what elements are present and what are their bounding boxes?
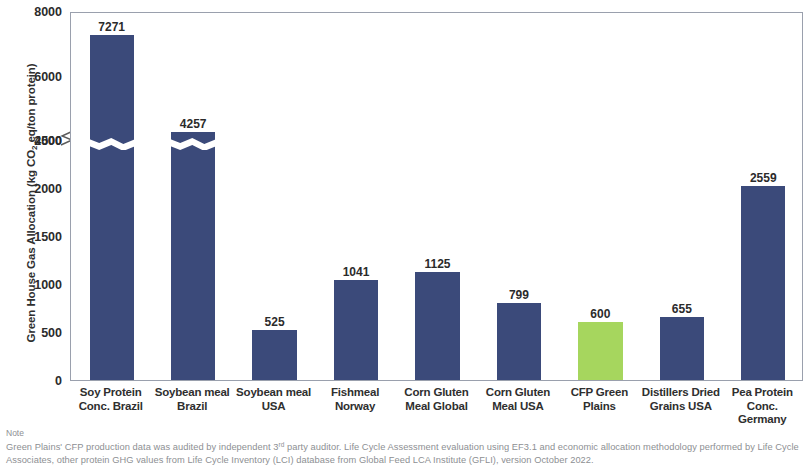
y-tick-label: 0 [16,375,62,388]
bar-group: 1041 [334,13,378,380]
x-category-label-line: Pea Protein [714,386,809,400]
bar-group: 2559 [741,13,785,380]
ghg-allocation-bar-chart: Green House Gas Allocation (kg CO2 eq/to… [0,0,809,472]
note-body: Green Plains' CFP production data was au… [6,439,806,466]
y-axis-tick-labels: 05001000150020002500400060008000 [8,0,62,472]
bar-group: 655 [660,13,704,380]
chart-note: Note Green Plains' CFP production data w… [6,428,806,466]
bar-group: 525 [252,13,296,380]
x-category-label: Pea ProteinConc.Germany [714,386,809,427]
bar[interactable] [415,272,459,380]
y-tick-label: 1500 [16,231,62,244]
bar[interactable] [252,330,296,380]
bar-value-label: 799 [471,289,567,301]
x-category-label-line: Conc. [714,400,809,414]
bar-group: 799 [497,13,541,380]
bar[interactable] [334,280,378,380]
bar[interactable] [171,132,215,380]
bar[interactable] [660,317,704,380]
bar-group: 600 [578,13,622,380]
bar-group: 1125 [415,13,459,380]
bar[interactable] [90,35,134,380]
bar-value-label: 1125 [389,258,485,270]
y-tick-label: 6000 [16,71,62,84]
y-tick-label: 500 [16,327,62,340]
plot-area: 72714257525104111257996006552559 [70,12,803,381]
bar-group: 4257 [171,13,215,380]
bar[interactable] [578,322,622,380]
bar-value-label: 7271 [64,21,160,33]
bar-value-label: 2559 [715,172,809,184]
y-tick-label: 8000 [16,6,62,19]
x-category-label-line: Germany [714,413,809,427]
note-title: Note [6,428,806,439]
bar-group: 7271 [90,13,134,380]
bar[interactable] [497,303,541,380]
bar[interactable] [741,186,785,380]
bar-value-label: 655 [634,303,730,315]
y-tick-label: 4000 [16,135,62,148]
y-tick-label: 2000 [16,183,62,196]
bar-value-label: 525 [226,316,322,328]
note-line1-pre: Green Plains' CFP production data was au… [6,442,278,452]
bar-value-label: 4257 [145,118,241,130]
y-tick-label: 1000 [16,279,62,292]
note-line1-post: party auditor. Life Cycle Assessment eva… [284,442,697,452]
